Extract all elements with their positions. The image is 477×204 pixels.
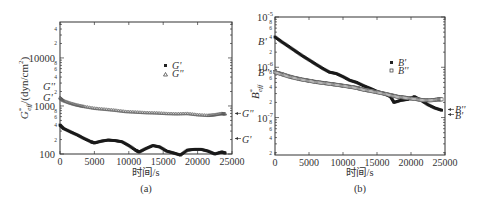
panel-b: 050001000015000200002500024682468246810-… — [248, 10, 466, 195]
panel-b-legend: B' B'' — [390, 57, 409, 76]
y-minor-tick-label: 6 — [54, 66, 57, 72]
legend-marker-g-double-prime — [164, 73, 168, 77]
legend-marker-g-prime — [164, 64, 167, 67]
data-point — [440, 98, 443, 101]
y-minor-tick-label: 2 — [54, 40, 57, 46]
y-minor-tick-label: 4 — [269, 84, 272, 90]
y-minor-tick-label: 8 — [269, 119, 272, 125]
y-minor-tick-label: 6 — [269, 75, 272, 81]
data-point — [440, 109, 443, 112]
y-minor-tick-label: 2 — [269, 99, 272, 105]
y-minor-tick-label: 2 — [269, 150, 272, 156]
panel-a-ticks: 0500010000150002000025000246824682410010… — [29, 22, 245, 167]
arrow-head-icon — [235, 137, 238, 140]
panel-a-frame — [60, 22, 232, 154]
y-minor-tick-label: 6 — [54, 114, 57, 120]
x-tick-label: 20000 — [399, 157, 424, 168]
series-Gpp — [58, 96, 226, 117]
y-minor-tick-label: 2 — [269, 49, 272, 55]
data-point — [224, 152, 227, 155]
y-minor-tick-label: 4 — [54, 26, 57, 32]
panel-a-caption: (a) — [140, 183, 152, 195]
panel-b-xlabel: 时间/s — [346, 166, 373, 178]
left-annotation: B' — [258, 36, 267, 47]
legend-label-g-double-prime: G'' — [172, 68, 184, 79]
y-minor-tick-label: 4 — [54, 122, 57, 128]
arrow-head-icon — [235, 112, 238, 115]
left-annotation: G'' — [43, 81, 56, 92]
x-tick-label: 10000 — [116, 156, 141, 167]
y-minor-tick-label: 8 — [269, 19, 272, 25]
y-minor-tick-label: 4 — [54, 74, 57, 80]
panel-a-ylabel: G*eff/(dyn/cm2) — [17, 57, 33, 120]
x-tick-label: 0 — [58, 156, 63, 167]
series-Gp — [59, 124, 227, 157]
arrow-head-icon — [448, 108, 451, 111]
figure: 0500010000150002000025000246824682410010… — [0, 0, 477, 204]
panel-b-ylabel: B*eff — [248, 84, 264, 99]
x-tick-label: 25000 — [433, 157, 458, 168]
y-minor-tick-label: 4 — [269, 135, 272, 141]
x-tick-label: 5000 — [84, 156, 104, 167]
panel-b-series — [274, 36, 444, 112]
y-minor-tick-label: 6 — [269, 25, 272, 31]
legend-marker-b-double-prime — [390, 69, 393, 72]
panel-a-xlabel: 时间/s — [132, 166, 159, 178]
y-tick-label: 100 — [39, 149, 55, 160]
x-tick-label: 15000 — [151, 156, 176, 167]
x-tick-label: 5000 — [299, 157, 319, 168]
panel-b-caption: (b) — [354, 183, 367, 195]
y-minor-tick-label: 8 — [269, 69, 272, 75]
right-annotation: G' — [242, 134, 252, 145]
y-minor-tick-label: 4 — [269, 34, 272, 40]
x-tick-label: 0 — [273, 157, 278, 168]
x-tick-label: 25000 — [220, 156, 245, 167]
y-minor-tick-label: 2 — [54, 137, 57, 143]
right-annotation: B' — [455, 110, 464, 121]
left-annotation: G' — [43, 92, 54, 103]
left-annotation: B'' — [258, 67, 270, 78]
y-minor-tick-label: 6 — [269, 126, 272, 132]
panel-a: 0500010000150002000025000246824682410010… — [17, 22, 254, 195]
panel-a-series — [58, 96, 226, 156]
legend-label-b-double-prime: B'' — [398, 65, 409, 76]
y-tick-label: 10000 — [29, 53, 55, 64]
panel-a-legend: G' G'' — [164, 60, 185, 79]
x-tick-label: 20000 — [185, 156, 210, 167]
arrow-head-icon — [448, 113, 451, 116]
right-annotation: G'' — [242, 108, 254, 119]
legend-marker-b-prime — [390, 61, 393, 64]
